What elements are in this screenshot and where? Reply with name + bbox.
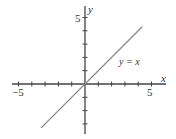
x-tick-label-neg5: −5 [12,86,24,98]
line-y-equals-x [41,27,142,128]
y-axis-label: y [87,3,93,15]
curve-label: y = x [118,56,140,67]
x-axis-label: x [160,72,166,84]
chart: −5 5 5 x y y = x [0,0,176,139]
y-tick-label-5: 5 [75,12,81,24]
x-tick-label-5: 5 [147,86,153,98]
